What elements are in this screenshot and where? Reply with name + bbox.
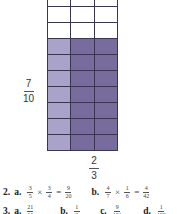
fraction: 9121: [113, 204, 122, 214]
grid-cell: [70, 54, 94, 71]
grid-cell: [47, 134, 71, 151]
fraction-denominator: 10: [23, 94, 34, 104]
fraction: 47: [105, 185, 111, 199]
grid-cell: [70, 70, 94, 87]
grid-cell: [70, 134, 94, 151]
part-label: a.: [14, 206, 21, 214]
row-fraction-label: 7 10: [23, 79, 34, 104]
grid-cell: [94, 6, 118, 23]
grid-cell: [70, 22, 94, 39]
fraction-numerator: 7: [26, 79, 32, 89]
fraction-area-grid: [47, 0, 117, 150]
grid-cell: [94, 134, 118, 151]
grid-cell: [94, 102, 118, 119]
fraction-denominator: 3: [91, 171, 97, 181]
column-fraction-label: 2 3: [89, 156, 99, 181]
grid-cell: [47, 54, 71, 71]
answer-3c: c. 9121: [100, 204, 143, 214]
answer-2b: b. 47 × 16 = 442: [91, 185, 151, 199]
answer-line-3: 3. a. 2111 b. 13 c. 9121 d. 1100: [3, 204, 168, 214]
fraction: 35: [27, 185, 33, 199]
grid-cell: [94, 118, 118, 135]
question-number: 2.: [3, 187, 10, 197]
grid-cell: [47, 38, 71, 55]
part-label: c.: [100, 206, 107, 214]
grid-cell: [47, 102, 71, 119]
answer-3d: d. 1100: [143, 204, 168, 214]
part-label: b.: [91, 187, 99, 197]
grid-cell: [70, 102, 94, 119]
grid-cell: [47, 22, 71, 39]
fraction-bar: [24, 91, 34, 92]
grid-cell: [47, 6, 71, 23]
fraction: 13: [74, 204, 80, 214]
grid-cell: [47, 70, 71, 87]
grid-cell: [94, 54, 118, 71]
fraction: 1100: [157, 204, 166, 214]
times-sign: ×: [37, 187, 42, 197]
answer-3a: a. 2111: [14, 204, 60, 214]
grid-cell: [47, 86, 71, 103]
grid-cell: [94, 86, 118, 103]
grid-cell: [47, 118, 71, 135]
fraction: 16: [124, 185, 130, 199]
answer-line-2: 2. a. 35 × 34 = 920 b. 47 × 16 = 442: [3, 185, 151, 199]
grid-cell: [94, 70, 118, 87]
fraction-numerator: 2: [91, 156, 97, 166]
part-label: b.: [60, 206, 68, 214]
times-sign: ×: [115, 187, 120, 197]
fraction: 920: [65, 185, 71, 199]
fraction: 442: [143, 185, 149, 199]
equals-sign: =: [134, 187, 139, 197]
answer-3b: b. 13: [60, 204, 100, 214]
fraction: 34: [46, 185, 52, 199]
grid-cell: [94, 22, 118, 39]
grid-cell: [94, 38, 118, 55]
answer-2a: a. 35 × 34 = 920: [14, 185, 73, 199]
fraction-bar: [89, 168, 99, 169]
part-label: a.: [14, 187, 21, 197]
fraction: 2111: [27, 204, 33, 214]
grid-cell: [70, 38, 94, 55]
grid-cell: [70, 86, 94, 103]
part-label: d.: [143, 206, 151, 214]
question-number: 3.: [3, 206, 10, 214]
grid-cell: [70, 118, 94, 135]
equals-sign: =: [56, 187, 61, 197]
grid-cell: [70, 6, 94, 23]
